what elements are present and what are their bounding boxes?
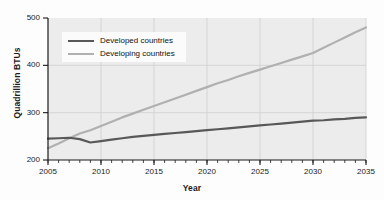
legend-line-swatch-developing [68, 53, 94, 55]
y-axis-title: Quadrillion BTUs [12, 28, 22, 138]
y-tick-label: 500 [10, 13, 40, 22]
x-tick-label: 2025 [240, 167, 280, 176]
legend-label-developing: Developing countries [100, 49, 175, 58]
y-tick-label: 200 [10, 155, 40, 164]
y-tick-label: 400 [10, 60, 40, 69]
y-tick-label: 300 [10, 108, 40, 117]
legend-item-developing: Developing countries [65, 47, 183, 60]
legend-line-swatch-developed [68, 40, 94, 42]
x-tick-label: 2015 [134, 167, 174, 176]
x-tick-label: 2020 [187, 167, 227, 176]
x-tick-label: 2010 [81, 167, 121, 176]
chart-figure: Quadrillion BTUs Year 200300400500 20052… [0, 0, 384, 200]
x-axis-title: Year [0, 183, 384, 193]
chart-legend: Developed countries Developing countries [62, 32, 186, 62]
legend-label-developed: Developed countries [100, 36, 173, 45]
x-tick-label: 2030 [293, 167, 333, 176]
legend-item-developed: Developed countries [65, 34, 183, 47]
x-tick-label: 2005 [28, 167, 68, 176]
x-tick-label: 2035 [346, 167, 384, 176]
